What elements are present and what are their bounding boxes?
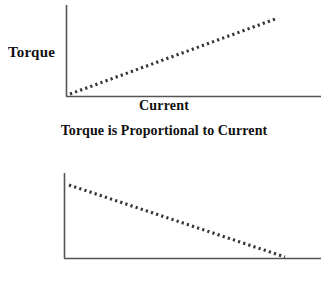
motor-characteristic-figure: Torque Current Torque is Proportional to… [0, 0, 328, 287]
figure-caption: Torque is Proportional to Current [0, 124, 328, 138]
torque-rpm-trend-line [69, 185, 285, 257]
torque-rpm-plot [0, 160, 328, 270]
chart-torque-vs-rpm: Torque rpm [0, 160, 328, 270]
y-axis-label-torque: Torque [8, 45, 55, 60]
x-axis-label-current: Current [0, 99, 328, 113]
chart-torque-vs-current: Torque Current [0, 0, 328, 118]
torque-current-trend-line [70, 18, 278, 94]
